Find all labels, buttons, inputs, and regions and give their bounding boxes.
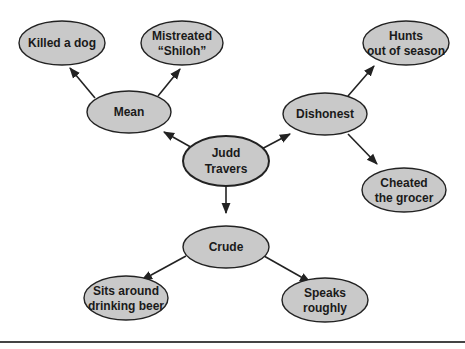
edge-crude-sits [142,256,186,280]
node-sits-around [84,276,168,320]
label-dishonest: Dishonest [296,107,354,121]
edge-mean-mistreated [158,69,180,96]
label-killed-a-dog: Killed a dog [28,36,96,50]
edge-dishonest-hunts [348,66,374,96]
node-hunts-out-of-season [363,21,449,65]
node-cheated-the-grocer [362,168,446,212]
label-judd-line1: Judd [212,146,241,160]
edge-mean-killed [70,68,95,98]
label-mistreated-line2: “Shiloh” [158,44,207,58]
label-cheated-line1: Cheated [380,176,427,190]
label-mean: Mean [114,105,145,119]
label-speaks-line1: Speaks [304,286,346,300]
label-hunts-line1: Hunts [389,29,423,43]
edge-crude-speaks [264,256,310,282]
node-judd-travers [183,136,269,186]
label-crude: Crude [209,240,244,254]
bottom-rule [0,341,465,343]
label-mistreated-line1: Mistreated [152,29,212,43]
label-sits-line2: drinking beer [88,299,164,313]
edge-dishonest-cheated [348,134,377,164]
character-web-diagram: Judd Travers Mean Dishonest Crude Killed… [0,0,465,349]
label-cheated-line2: the grocer [375,191,434,205]
node-mistreated-shiloh [141,21,223,65]
label-speaks-line2: roughly [303,301,347,315]
label-judd-line2: Travers [205,162,248,176]
label-hunts-line2: out of season [367,44,445,58]
label-sits-line1: Sits around [93,284,159,298]
node-speaks-roughly [282,278,368,322]
